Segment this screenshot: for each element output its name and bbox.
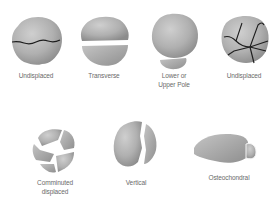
patella-lower-upper-pole-figure: [146, 10, 202, 70]
patella-lower-fragment: [82, 45, 128, 66]
label-line-2: Upper Pole: [146, 80, 202, 89]
patella-comminuted-figure: [28, 122, 82, 176]
label-transverse: Transverse: [76, 71, 132, 80]
patella-main-body: [152, 14, 198, 58]
label-vertical: Vertical: [108, 178, 164, 187]
label-comminuted-displaced: Comminuted displaced: [22, 178, 88, 196]
label-lower-upper-pole: Lower or Upper Pole: [146, 71, 202, 89]
label-line-1: Comminuted: [22, 178, 88, 187]
patella-upper-fragment: [81, 17, 129, 41]
comminuted-fragments: [33, 129, 75, 172]
patella-osteochondral-figure: [190, 128, 260, 168]
patella-side-profile: [194, 134, 248, 163]
label-undisplaced-2: Undisplaced: [216, 71, 272, 80]
label-osteochondral: Osteochondral: [196, 173, 262, 182]
patella-transverse-figure: [76, 12, 132, 68]
patella-right-fragment: [144, 124, 157, 164]
patella-left-fragment: [114, 121, 142, 166]
label-undisplaced: Undisplaced: [8, 71, 64, 80]
label-line-1: Lower or: [146, 71, 202, 80]
label-line-2: displaced: [22, 187, 88, 196]
pole-fragment: [160, 58, 187, 69]
osteochondral-fragment: [246, 143, 256, 158]
patella-vertical-figure: [108, 118, 164, 174]
patella-undisplaced-figure: [8, 12, 64, 68]
patella-undisplaced-stellate-figure: [216, 11, 272, 67]
